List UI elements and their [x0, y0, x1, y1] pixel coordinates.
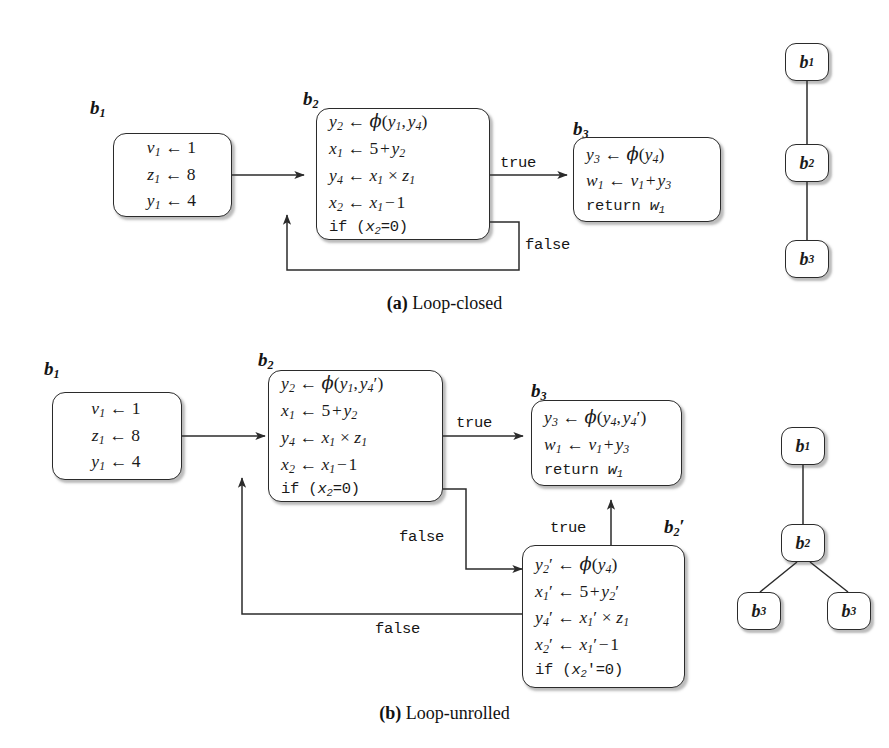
stmt-a-b2-2: y4 ← x1 × z1: [329, 163, 475, 190]
tree-a-node-b3: b3: [785, 240, 829, 278]
caption-panel-b: (b) Loop-unrolled: [0, 703, 889, 724]
edge-label-b-false-b2-b2prime: false: [399, 528, 444, 546]
stmt-b-b3-2: return w1: [544, 459, 667, 482]
stmt-b-b2-3: x2 ← x1 − 1: [281, 452, 428, 479]
stmt-b-b2-2: y4 ← x1 × z1: [281, 425, 428, 452]
stmt-b-b2prime-2: y4′ ← x1′ × z1: [535, 605, 670, 632]
stmt-b-b2-4: if (x2=0): [281, 478, 428, 501]
stmt-b-b2prime-0: y2′ ← ϕ(y4): [535, 551, 670, 579]
edge-b-b2-to-b2prime-false: [443, 489, 522, 569]
block-tag-b-b1: b1: [44, 358, 60, 382]
edge-label-b-false-b2prime-b2: false: [375, 620, 420, 638]
block-tag-a-b1: b1: [90, 97, 106, 121]
stmt-a-b2-1: x1 ← 5 + y2: [329, 136, 475, 163]
block-b-b3: y3 ← ϕ(y4, y4′) w1 ← v1 + y3 return w1: [531, 400, 682, 486]
block-b-b2prime: y2′ ← ϕ(y4) x1′ ← 5 + y2′ y4′ ← x1′ × z1…: [522, 545, 685, 688]
stmt-b-b3-0: y3 ← ϕ(y4, y4′): [544, 404, 667, 432]
stmt-b-b2prime-1: x1′ ← 5 + y2′: [535, 579, 670, 606]
block-a-b1: v1 ← 1 z1 ← 8 y1 ← 4: [113, 133, 232, 217]
caption-panel-a: (a) Loop-closed: [0, 293, 889, 314]
figure-root: b1 v1 ← 1 z1 ← 8 y1 ← 4 b2 y2 ← ϕ(y1, y4…: [0, 0, 889, 748]
stmt-b-b1-1: z1 ← 8: [65, 423, 167, 450]
tree-b-node-b3-right: b3: [827, 592, 871, 630]
tree-a-node-b2: b2: [785, 144, 829, 182]
tree-b-node-b3-left: b3: [737, 592, 781, 630]
caption-b-label: (b): [379, 703, 401, 723]
tree-a-node-b1: b1: [785, 43, 829, 81]
caption-a-text: Loop-closed: [412, 293, 502, 313]
stmt-b-b2prime-4: if (x2′=0): [535, 659, 670, 682]
block-a-b3: y3 ← ϕ(y4) w1 ← v1 + y3 return w1: [573, 137, 721, 222]
stmt-a-b3-0: y3 ← ϕ(y4): [586, 141, 706, 169]
block-tag-b-b2: b2: [258, 349, 274, 373]
block-b-b2: y2 ← ϕ(y1, y4′) x1 ← 5 + y2 y4 ← x1 × z1…: [268, 370, 443, 502]
stmt-b-b2-1: x1 ← 5 + y2: [281, 398, 428, 425]
stmt-a-b1-1: z1 ← 8: [126, 162, 217, 189]
stmt-a-b1-2: y1 ← 4: [126, 188, 217, 215]
stmt-b-b1-0: v1 ← 1: [65, 396, 167, 423]
tree-b-edge-b2-b3left: [760, 562, 797, 592]
tree-b-node-b2: b2: [781, 524, 825, 562]
edge-label-b-true-b2prime-b3: true: [550, 519, 586, 537]
stmt-a-b1-0: v1 ← 1: [126, 135, 217, 162]
stmt-b-b1-2: y1 ← 4: [65, 449, 167, 476]
stmt-b-b2prime-3: x2′ ← x1′ − 1: [535, 632, 670, 659]
block-a-b2: y2 ← ϕ(y1, y4) x1 ← 5 + y2 y4 ← x1 × z1 …: [316, 108, 490, 240]
edge-label-a-false: false: [525, 236, 570, 254]
stmt-b-b3-1: w1 ← v1 + y3: [544, 432, 667, 459]
tree-b-edge-b2-b3right: [810, 562, 848, 592]
caption-a-label: (a): [387, 293, 408, 313]
stmt-a-b2-3: x2 ← x1 − 1: [329, 190, 475, 217]
edge-label-a-true: true: [500, 154, 536, 172]
stmt-a-b2-4: if (x2=0): [329, 216, 475, 239]
edge-label-b-true-b2-b3: true: [456, 414, 492, 432]
tree-b-node-b1: b1: [781, 427, 825, 465]
stmt-a-b3-2: return w1: [586, 195, 706, 218]
stmt-a-b3-1: w1 ← v1 + y3: [586, 168, 706, 195]
caption-b-text: Loop-unrolled: [406, 703, 510, 723]
block-tag-a-b2: b2: [303, 88, 319, 112]
stmt-b-b2-0: y2 ← ϕ(y1, y4′): [281, 370, 428, 398]
block-b-b1: v1 ← 1 z1 ← 8 y1 ← 4: [52, 392, 182, 480]
stmt-a-b2-0: y2 ← ϕ(y1, y4): [329, 108, 475, 136]
block-tag-b-b2prime: b2′: [664, 516, 685, 540]
